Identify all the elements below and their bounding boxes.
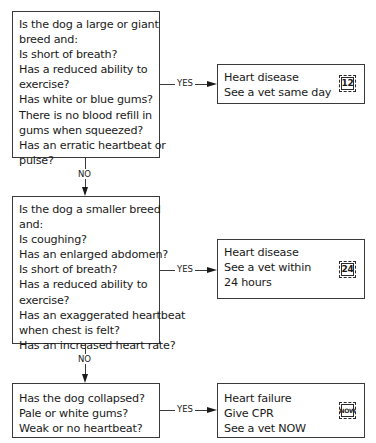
question-line: Has an exaggerated heartbeat — [19, 308, 153, 323]
outcome-box-3: Heart failure Give CPR See a vet NOW NOW — [217, 383, 365, 438]
outcome-line: Give CPR — [224, 406, 358, 421]
question-line: Has an enlarged abdomen? — [19, 247, 153, 262]
yes-label-3: YES — [175, 404, 195, 414]
question-box-1: Is the dog a large or giant breed and: I… — [12, 11, 160, 158]
no-label-2: NO — [76, 354, 93, 364]
question-line: Is short of breath? — [19, 47, 153, 62]
yes-label-1: YES — [175, 78, 195, 88]
arrow-down-icon — [82, 187, 88, 196]
question-line: pulse? — [19, 153, 153, 168]
outcome-line: Heart disease — [224, 245, 358, 260]
clock-12-icon: 12 — [339, 75, 356, 92]
question-line: and: — [19, 217, 153, 232]
question-line: Is coughing? — [19, 232, 153, 247]
question-line: Has an increased heart rate? — [19, 338, 153, 353]
arrow-down-icon — [82, 374, 88, 383]
question-line: Is the dog a smaller breed — [19, 202, 153, 217]
outcome-box-2: Heart disease See a vet within 24 hours … — [217, 239, 365, 299]
clock-24-icon: 24 — [339, 261, 356, 278]
question-line: exercise? — [19, 293, 153, 308]
question-line: Has an erratic heartbeat or — [19, 138, 153, 153]
arrow-right-icon — [207, 81, 217, 87]
outcome-box-1: Heart disease See a vet same day 12 — [217, 64, 365, 104]
question-line: breed and: — [19, 32, 153, 47]
question-line: exercise? — [19, 77, 153, 92]
outcome-line: See a vet NOW — [224, 421, 358, 436]
outcome-line: 24 hours — [224, 275, 358, 290]
outcome-line: See a vet within — [224, 260, 358, 275]
question-line: Is short of breath? — [19, 262, 153, 277]
question-line: Is the dog a large or giant — [19, 17, 153, 32]
outcome-line: Heart failure — [224, 391, 358, 406]
urgent-now-icon: NOW — [339, 402, 356, 419]
outcome-line: Heart disease — [224, 70, 358, 85]
question-line: Has a reduced ability to — [19, 277, 153, 292]
question-line: Has a reduced ability to — [19, 62, 153, 77]
question-line: when chest is felt? — [19, 323, 153, 338]
question-line: Pale or white gums? — [19, 406, 153, 421]
yes-label-2: YES — [175, 264, 195, 274]
question-box-2: Is the dog a smaller breed and: Is cough… — [12, 196, 160, 344]
question-line: Has white or blue gums? — [19, 92, 153, 107]
question-line: gums when squeezed? — [19, 123, 153, 138]
arrow-right-icon — [207, 267, 217, 273]
question-line: Has the dog collapsed? — [19, 391, 153, 406]
no-label-1: NO — [76, 169, 93, 179]
arrow-right-icon — [207, 407, 217, 413]
question-line: There is no blood refill in — [19, 108, 153, 123]
question-line: Weak or no heartbeat? — [19, 421, 153, 436]
outcome-line: See a vet same day — [224, 85, 358, 100]
question-box-3: Has the dog collapsed? Pale or white gum… — [12, 383, 160, 438]
